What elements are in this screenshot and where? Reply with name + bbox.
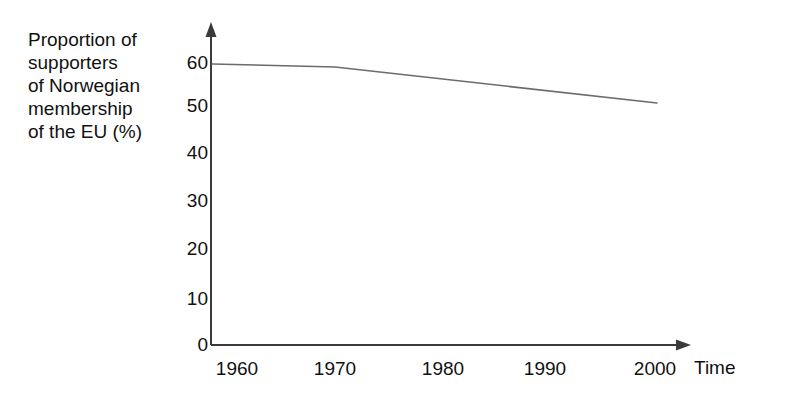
chart-figure: Proportion of supporters of Norwegian me…: [0, 0, 785, 405]
data-series-line: [212, 64, 657, 103]
x-axis-arrowhead-icon: [676, 340, 691, 351]
plot-area: [0, 0, 785, 405]
y-axis-arrowhead-icon: [206, 22, 217, 37]
